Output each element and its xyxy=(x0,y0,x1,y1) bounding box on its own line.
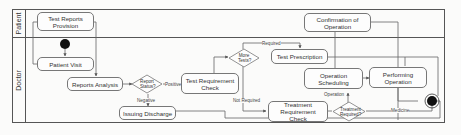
decision-label: Report Status? xyxy=(131,79,163,89)
node-performing-operation[interactable]: Performing Operation xyxy=(369,67,427,88)
decision-treatment-required[interactable]: Treatment Required? xyxy=(332,101,366,122)
edge-label-operation: Operation xyxy=(324,92,344,97)
node-operation-scheduling[interactable]: Operation Scheduling xyxy=(304,68,363,89)
edge-label-not-required: Not Required xyxy=(233,98,260,103)
node-test-reports-provision[interactable]: Test Reports Provision xyxy=(37,12,94,31)
edge-label-positive: Positive xyxy=(165,82,181,87)
edge-label-required: Required xyxy=(262,41,281,46)
edge-label-negative: Negative xyxy=(137,98,155,103)
decision-report-status[interactable]: Report Status? xyxy=(131,74,163,94)
end-node xyxy=(427,96,437,106)
diagram-canvas: Patient Doctor xyxy=(0,0,461,135)
node-reports-analysis[interactable]: Reports Analysis xyxy=(67,77,123,91)
node-treatment-requirement-check[interactable]: Treatment Requirement Check xyxy=(268,101,328,122)
start-node xyxy=(60,39,70,49)
decision-label: More Tests? xyxy=(228,53,260,63)
edge-label-medicine: Medicine xyxy=(391,108,409,113)
node-issuing-discharge[interactable]: Issuing Discharge xyxy=(119,106,176,120)
node-confirmation-of-operation[interactable]: Confirmation of Operation xyxy=(304,13,371,32)
node-patient-visit[interactable]: Patient Visit xyxy=(37,57,94,71)
node-test-requirement-check[interactable]: Test Requirement Check xyxy=(181,73,239,94)
node-test-prescription[interactable]: Test Prescription xyxy=(271,49,328,64)
decision-label: Treatment Required? xyxy=(332,107,366,117)
decision-more-tests[interactable]: More Tests? xyxy=(228,48,260,68)
